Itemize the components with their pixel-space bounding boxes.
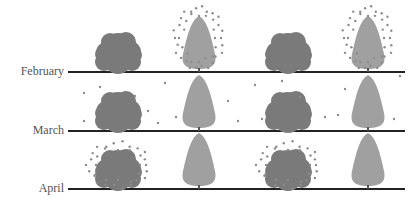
pollen-dot [147, 110, 149, 112]
pollen-dot [262, 152, 264, 154]
pollen-dot [355, 52, 357, 54]
pollen-dot [186, 52, 188, 54]
pollen-dot [221, 52, 223, 54]
pollen-dot [350, 46, 352, 48]
pollen-dot [217, 24, 219, 26]
broadleaf-tree-icon [265, 91, 312, 133]
pollen-dot [306, 147, 308, 149]
pollen-dot [308, 172, 310, 174]
pollen-dot [314, 158, 316, 160]
pollen-dot [227, 100, 229, 102]
pollen-dot [176, 44, 178, 46]
pollen-dot [266, 146, 268, 148]
pollen-dot [314, 177, 316, 179]
broadleaf-tree-icon [95, 91, 142, 133]
pollen-dot [274, 147, 276, 149]
pollen-dot [94, 173, 96, 175]
pollen-dot [146, 170, 148, 172]
pollen-dot [204, 57, 206, 59]
pollen-dot [383, 46, 385, 48]
pollen-dot [266, 155, 268, 157]
pollen-dot [212, 18, 214, 20]
pollen-dot [139, 154, 141, 156]
pollen-dot [354, 20, 356, 22]
pollen-dot [255, 164, 257, 166]
pollen-dot [359, 61, 361, 63]
pollen-dot [174, 37, 176, 39]
pollen-dot [347, 24, 349, 26]
pollen-dot [265, 164, 267, 166]
pollen-dot [370, 5, 372, 7]
pollen-dot [352, 10, 354, 12]
pollen-dot [180, 57, 182, 59]
broadleaf-tree-icon [95, 149, 142, 191]
pollen-dot [221, 44, 223, 46]
pollen-dot [369, 65, 371, 67]
pollen-dot [314, 151, 316, 153]
pollen-dot [144, 151, 146, 153]
pollen-dot [183, 28, 185, 30]
pollen-dot [214, 55, 216, 57]
pollen-dot [299, 96, 301, 98]
pollen-dot [90, 158, 92, 160]
pollen-dot [214, 46, 216, 48]
pollen-dot [287, 149, 289, 151]
pollen-dot [275, 179, 277, 181]
pollen-dot [354, 60, 356, 62]
pollen-dot [345, 44, 347, 46]
pollen-dot [217, 16, 219, 18]
pollen-dot [92, 152, 94, 154]
pollen-dot [198, 61, 200, 63]
pollen-dot [349, 17, 351, 19]
broadleaf-tree-icon [265, 32, 312, 74]
pollen-dot [83, 92, 85, 94]
pollen-dot [96, 182, 98, 184]
pollen-dot [258, 170, 260, 172]
pollen-dot [211, 12, 213, 14]
conifer-tree-icon [352, 133, 385, 189]
pollen-dot [113, 184, 115, 186]
pollen-dot [190, 11, 192, 13]
pollen-dot [211, 61, 213, 63]
pollen-dot [264, 173, 266, 175]
pollen-dot [144, 158, 146, 160]
pollen-dot [145, 164, 147, 166]
pollen-dot [117, 149, 119, 151]
pollen-dot [190, 61, 192, 63]
pollen-dot [189, 67, 191, 69]
pollen-dot [205, 15, 207, 17]
pollen-dot [291, 140, 293, 142]
pollen-dot [364, 67, 366, 69]
conifer-tree-icon [183, 133, 216, 189]
pollen-diagram [0, 0, 416, 204]
pollen-dot [390, 52, 392, 54]
pollen-dot [359, 11, 361, 13]
pollen-dot [134, 95, 136, 97]
pollen-dot [96, 146, 98, 148]
pollen-dot [364, 7, 366, 9]
pollen-dot [337, 114, 339, 116]
pollen-dot [382, 28, 384, 30]
pollen-dot [201, 5, 203, 7]
pollen-dot [128, 146, 130, 148]
pollen-dot [309, 154, 311, 156]
pollen-dot [207, 67, 209, 69]
pollen-dot [390, 44, 392, 46]
pollen-dot [135, 179, 137, 181]
conifer-tree-icon [352, 16, 385, 72]
pollen-dot [95, 164, 97, 166]
pollen-dot [99, 86, 101, 88]
pollen-dot [299, 184, 301, 186]
pollen-dot [139, 164, 141, 166]
pollen-dot [173, 29, 175, 31]
broadleaf-tree-icon [265, 149, 312, 191]
pollen-dot [291, 188, 293, 190]
pollen-dot [85, 164, 87, 166]
pollen-dot [104, 184, 106, 186]
broadleaf-tree-icon [95, 32, 142, 74]
pollen-dot [386, 16, 388, 18]
pollen-dot [381, 18, 383, 20]
pollen-dot [212, 55, 214, 57]
pollen-dot [178, 24, 180, 26]
pollen-dot [138, 172, 140, 174]
